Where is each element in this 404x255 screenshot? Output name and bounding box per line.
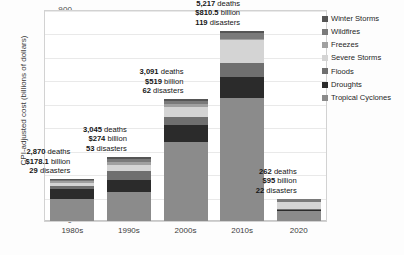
annotation-2000s: 3,091 deaths$519 billion62 disasters xyxy=(86,67,184,95)
bar-segment xyxy=(277,202,321,209)
annotation-deaths-unit: deaths xyxy=(102,125,127,134)
annotation-cost-unit: billion xyxy=(162,77,184,86)
annotation-cost-value: $178.1 xyxy=(26,157,49,166)
bar-segment xyxy=(107,171,151,180)
annotation-cost: $178.1 billion xyxy=(0,157,70,166)
bar-segment xyxy=(220,77,264,98)
annotation-disasters: 29 disasters xyxy=(0,166,70,175)
legend-swatch-icon xyxy=(322,68,328,74)
bar-stack-2000s xyxy=(164,99,208,221)
bar-segment xyxy=(164,125,208,143)
legend-label: Freezes xyxy=(331,41,358,49)
legend-label: Wildfires xyxy=(331,28,360,36)
annotation-disasters-value: 22 xyxy=(256,186,264,195)
annotation-deaths-unit: deaths xyxy=(215,0,240,8)
annotation-cost: $519 billion xyxy=(86,77,184,86)
annotation-cost-unit: billion xyxy=(219,8,241,17)
legend-swatch-icon xyxy=(322,42,328,48)
annotation-cost-value: $810.5 xyxy=(195,8,218,17)
legend-item[interactable]: Wildfires xyxy=(322,25,402,38)
legend: Winter StormsWildfiresFreezesSevere Stor… xyxy=(322,12,402,104)
annotation-deaths-unit: deaths xyxy=(159,67,184,76)
bar-segment xyxy=(220,63,264,77)
annotation-cost-unit: billion xyxy=(105,134,127,143)
annotation-cost-value: $519 xyxy=(145,77,162,86)
annotation-cost-unit: billion xyxy=(275,176,297,185)
annotation-cost: $810.5 billion xyxy=(142,8,240,17)
annotation-disasters-value: 62 xyxy=(143,86,151,95)
bar-segment xyxy=(50,189,94,198)
annotation-cost: $274 billion xyxy=(29,134,127,143)
legend-label: Winter Storms xyxy=(331,15,379,23)
legend-item[interactable]: Winter Storms xyxy=(322,12,402,25)
legend-swatch-icon xyxy=(322,95,328,101)
annotation-disasters-unit: disasters xyxy=(208,18,241,27)
x-axis-tick-label: 2010s xyxy=(212,226,272,235)
legend-label: Tropical Cyclones xyxy=(331,94,391,102)
legend-swatch-icon xyxy=(322,29,328,35)
annotation-deaths: 3,091 deaths xyxy=(86,67,184,76)
annotation-disasters: 62 disasters xyxy=(86,86,184,95)
annotation-cost-value: $95 xyxy=(262,176,275,185)
annotation-disasters: 53 disasters xyxy=(29,144,127,153)
x-axis-tick-label: 2000s xyxy=(156,226,216,235)
legend-swatch-icon xyxy=(322,55,328,61)
legend-label: Severe Storms xyxy=(331,54,381,62)
legend-swatch-icon xyxy=(322,82,328,88)
bar-segment xyxy=(50,199,94,222)
annotation-2020: 262 deaths$95 billion22 disasters xyxy=(199,167,297,195)
legend-item[interactable]: Floods xyxy=(322,65,402,78)
annotation-deaths-value: 262 xyxy=(259,167,272,176)
bar-segment xyxy=(220,40,264,63)
annotation-cost: $95 billion xyxy=(199,176,297,185)
annotation-cost-value: $274 xyxy=(88,134,105,143)
annotation-disasters-value: 119 xyxy=(195,18,207,27)
x-axis-tick-label: 1980s xyxy=(42,226,102,235)
bar-segment xyxy=(107,180,151,192)
bar-segment xyxy=(107,192,151,221)
annotation-disasters: 22 disasters xyxy=(199,186,297,195)
annotation-disasters-value: 29 xyxy=(29,166,37,175)
legend-item[interactable]: Severe Storms xyxy=(322,52,402,65)
legend-item[interactable]: Droughts xyxy=(322,78,402,91)
x-axis-tick-label: 1990s xyxy=(99,226,159,235)
annotation-disasters-unit: disasters xyxy=(94,144,127,153)
bar-stack-2020 xyxy=(277,199,321,221)
legend-item[interactable]: Freezes xyxy=(322,38,402,51)
annotation-deaths: 262 deaths xyxy=(199,167,297,176)
annotation-disasters-unit: disasters xyxy=(264,186,297,195)
bar-stack-1990s xyxy=(107,157,151,221)
annotation-deaths-value: 3,045 xyxy=(83,125,102,134)
annotation-disasters-unit: disasters xyxy=(38,166,71,175)
annotation-deaths-value: 3,091 xyxy=(140,67,159,76)
annotation-1990s: 3,045 deaths$274 billion53 disasters xyxy=(29,125,127,153)
annotation-disasters: 119 disasters xyxy=(142,18,240,27)
annotation-disasters-unit: disasters xyxy=(151,86,184,95)
annotation-cost-unit: billion xyxy=(49,157,71,166)
legend-label: Droughts xyxy=(331,81,362,89)
bar-segment xyxy=(164,117,208,125)
legend-item[interactable]: Tropical Cyclones xyxy=(322,91,402,104)
bar-stack-1980s xyxy=(50,179,94,221)
annotation-deaths: 3,045 deaths xyxy=(29,125,127,134)
annotation-2010s: 5,217 deaths$810.5 billion119 disasters xyxy=(142,0,240,27)
disaster-cost-chart: 9008007006005004003002001000 CPI-adjuste… xyxy=(0,0,404,255)
annotation-deaths-value: 5,217 xyxy=(196,0,215,8)
legend-label: Floods xyxy=(331,68,354,76)
legend-swatch-icon xyxy=(322,16,328,22)
annotation-deaths: 5,217 deaths xyxy=(142,0,240,8)
bar-segment xyxy=(277,211,321,221)
bar-segment xyxy=(220,98,264,221)
annotation-deaths-unit: deaths xyxy=(272,167,297,176)
x-axis-tick-label: 2020 xyxy=(269,226,329,235)
bar-segment xyxy=(164,107,208,117)
